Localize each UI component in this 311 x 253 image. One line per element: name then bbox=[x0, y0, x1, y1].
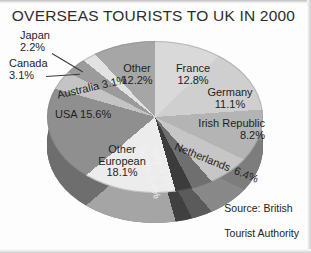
source-line-1: Source: British bbox=[224, 202, 292, 214]
slice-label-france: France 12.8% bbox=[165, 63, 221, 86]
slice-name-value-usa: USA 15.6% bbox=[55, 108, 111, 120]
figure-border-bottom bbox=[0, 249, 311, 253]
slice-value-france: 12.8% bbox=[177, 74, 208, 86]
figure-border-right bbox=[307, 0, 311, 253]
callout-value-canada: 3.1% bbox=[9, 69, 34, 81]
callout-label-canada: Canada 3.1% bbox=[9, 58, 48, 81]
slice-value-germany: 11.1% bbox=[215, 98, 245, 110]
slice-name-other-european: Other bbox=[108, 143, 136, 155]
slice-name-france: France bbox=[176, 62, 210, 74]
callout-name-japan: Japan bbox=[20, 29, 50, 41]
callout-value-japan: 2.2% bbox=[20, 41, 45, 53]
slice-label-other: Other 12.2% bbox=[109, 63, 165, 86]
figure-border-top bbox=[0, 0, 311, 3]
slice-label-usa: USA 15.6% bbox=[55, 109, 129, 121]
slice-label-other-european: Other European 18.1% bbox=[91, 144, 153, 179]
source-line-2: Tourist Authority bbox=[224, 227, 299, 239]
source-attribution: Source: British Tourist Authority bbox=[224, 189, 299, 239]
slice-value-irish-republic: 8.2% bbox=[240, 129, 265, 141]
slice-name2-other-european: European bbox=[98, 155, 146, 167]
slice-name-other: Other bbox=[123, 62, 151, 74]
callout-name-canada: Canada bbox=[9, 57, 48, 69]
slice-value-other: 12.2% bbox=[121, 74, 152, 86]
slice-label-germany: Germany 11.1% bbox=[199, 87, 261, 110]
chart-title: OVERSEAS TOURISTS TO UK IN 2000 bbox=[0, 7, 307, 25]
slice-label-irish-republic: Irish Republic 8.2% bbox=[187, 118, 265, 141]
slice-name-germany: Germany bbox=[207, 86, 252, 98]
pie-chart-figure: OVERSEAS TOURISTS TO UK IN 2000 France 1… bbox=[0, 0, 311, 253]
slice-value-other-european: 18.1% bbox=[106, 166, 137, 178]
callout-label-japan: Japan 2.2% bbox=[20, 30, 50, 53]
slice-name-irish-republic: Irish Republic bbox=[198, 117, 265, 129]
